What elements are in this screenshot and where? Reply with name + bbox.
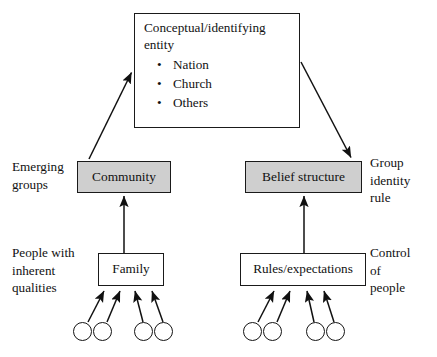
person-circle[interactable] xyxy=(134,322,153,341)
node-family[interactable]: Family xyxy=(98,253,164,286)
conceptual-entity-list: • Nation • Church • Others xyxy=(135,55,299,112)
node-conceptual-entity[interactable]: Conceptual/identifying entity • Nation •… xyxy=(134,13,300,128)
label-emerging-groups: Emerging groups xyxy=(12,158,76,193)
node-belief-structure[interactable]: Belief structure xyxy=(245,161,362,193)
list-item: • Others xyxy=(135,93,299,112)
person-circle[interactable] xyxy=(93,322,112,341)
bullet-icon: • xyxy=(157,74,162,93)
node-rules-expectations-label: Rules/expectations xyxy=(253,261,353,277)
person-circle[interactable] xyxy=(73,322,92,341)
person-circle[interactable] xyxy=(154,322,173,341)
node-community[interactable]: Community xyxy=(77,161,171,193)
label-control-of-people: Control of people xyxy=(370,244,432,297)
label-people-with-inherent-qualities: People with inherent qualities xyxy=(12,244,94,297)
edge-people-to-rules xyxy=(258,291,334,322)
list-item-label: Nation xyxy=(173,57,209,72)
node-community-label: Community xyxy=(92,169,156,185)
node-conceptual-heading: Conceptual/identifying entity xyxy=(135,20,299,53)
list-item-label: Others xyxy=(173,95,208,110)
label-group-identity-rule: Group identity rule xyxy=(370,154,434,207)
list-item-label: Church xyxy=(173,76,212,91)
node-rules-expectations[interactable]: Rules/expectations xyxy=(240,253,366,286)
person-circle[interactable] xyxy=(326,322,345,341)
diagram-canvas: Conceptual/identifying entity • Nation •… xyxy=(0,0,437,357)
edge-people-to-family xyxy=(88,291,163,322)
bullet-icon: • xyxy=(157,93,162,112)
edge-conceptual-to-belief-structure xyxy=(301,62,351,158)
person-circle[interactable] xyxy=(243,322,262,341)
person-circle[interactable] xyxy=(306,322,325,341)
node-family-label: Family xyxy=(112,261,149,277)
list-item: • Church xyxy=(135,74,299,93)
person-circle[interactable] xyxy=(263,322,282,341)
bullet-icon: • xyxy=(157,55,162,74)
edge-community-to-conceptual xyxy=(89,73,132,160)
node-belief-structure-label: Belief structure xyxy=(262,169,345,185)
list-item: • Nation xyxy=(135,55,299,74)
